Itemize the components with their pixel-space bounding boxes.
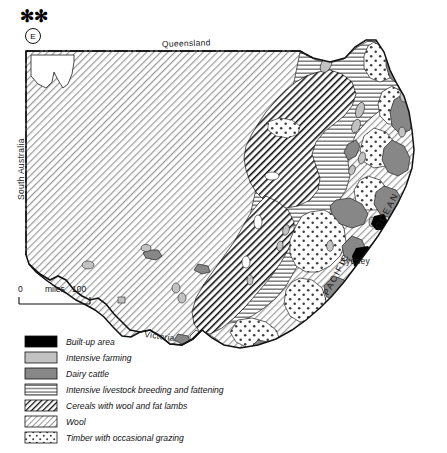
legend-item-cereals: Cereals with wool and fat lambs [25, 400, 188, 411]
legend-swatch-intensive-farming [25, 352, 57, 363]
legend-label-dairy-cattle: Dairy cattle [66, 369, 109, 379]
map-canvas: Queensland South Australia Victoria Sydn… [0, 0, 447, 453]
circled-letter-e: E [30, 32, 35, 41]
scale-right-value: 100 [72, 284, 86, 294]
legend-label-timber: Timber with occasional grazing [66, 433, 184, 443]
legend-label-built-up-area: Built-up area [66, 337, 115, 347]
legend-item-intensive-farming: Intensive farming [25, 352, 132, 363]
legend-swatch-dairy-cattle [25, 368, 57, 379]
asterisk-marks: ✻✻ [20, 7, 48, 26]
legend-swatch-cereals [25, 400, 57, 411]
legend-item-intensive-livestock: Intensive livestock breeding and fatteni… [25, 384, 224, 395]
legend-swatch-built-up-area [25, 336, 57, 347]
legend-swatch-timber [25, 432, 57, 443]
legend-label-wool: Wool [66, 417, 87, 427]
legend-item-dairy-cattle: Dairy cattle [25, 368, 109, 379]
label-queensland: Queensland [162, 37, 211, 49]
legend-swatch-wool [25, 416, 57, 427]
legend-label-intensive-farming: Intensive farming [66, 353, 132, 363]
label-south-australia: South Australia [16, 138, 26, 200]
legend-label-intensive-livestock: Intensive livestock breeding and fatteni… [66, 385, 224, 395]
legend-label-cereals: Cereals with wool and fat lambs [66, 401, 188, 411]
legend-item-built-up-area: Built-up area [25, 336, 115, 347]
legend-swatch-intensive-livestock [25, 384, 57, 395]
scale-unit: miles [45, 284, 65, 294]
legend-item-wool: Wool [25, 416, 87, 427]
scale-left-value: 0 [18, 284, 23, 294]
land-use-map: Queensland South Australia Victoria Sydn… [0, 0, 447, 453]
legend-item-timber: Timber with occasional grazing [25, 432, 184, 443]
